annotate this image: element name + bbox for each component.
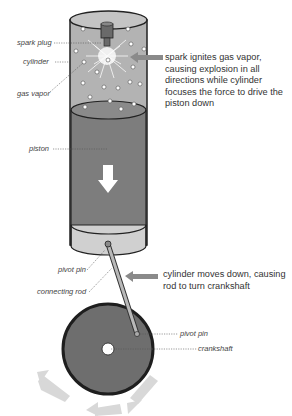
label-connecting-rod: connecting rod — [37, 288, 86, 296]
label-cylinder: cylinder — [23, 58, 49, 66]
label-spark-plug: spark plug — [17, 39, 52, 47]
left-arrow-icon — [125, 271, 158, 282]
caption-rod: cylinder moves down, causing rod to turn… — [163, 269, 291, 292]
caption-ignition: spark ignites gas vapor, causing explosi… — [165, 52, 290, 110]
crankshaft-wheel — [63, 304, 153, 394]
label-pivot-pin-top: pivot pin — [58, 266, 86, 274]
label-crankshaft: crankshaft — [198, 345, 233, 353]
label-pivot-pin-bottom: pivot pin — [180, 330, 208, 338]
label-gas-vapor: gas vapor — [17, 90, 50, 98]
label-piston: piston — [29, 145, 49, 153]
